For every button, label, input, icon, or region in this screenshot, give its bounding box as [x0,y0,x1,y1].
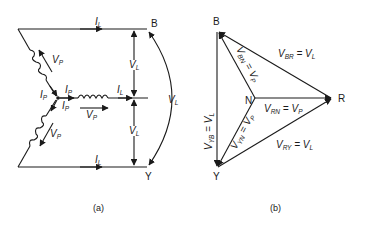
lower-phase-wire-b [18,146,30,167]
vp-upper-label: VP [52,54,64,66]
caption-a: (a) [93,203,104,213]
node-n-label: N [245,95,252,106]
middle-phase-coil [78,95,108,98]
ip-lower-arrow [51,100,57,111]
ip-right-bottom-label: IP [62,100,70,112]
vl-lower-label: VL [129,125,140,137]
vl-upper-label: VL [129,59,140,71]
vbr-label: VBR = VL [278,48,316,60]
il-top-label: IL [95,16,102,28]
vyb-label: VYB = VL [203,113,215,150]
node-b-label-a: B [151,18,158,29]
vyn-label: VYN = VP [228,112,257,152]
three-phase-star-diagram: B Y IL IL IL VP VP VP IP IP IP VL VL VL … [0,0,365,226]
vp-lower-label: VP [50,128,62,140]
node-b-label-b: B [213,16,220,27]
vp-mid-label: VP [86,109,98,121]
vp-upper-arrow [39,50,52,72]
vbn-label: VBN = VP [233,45,262,85]
vrn-label: VRN = VP [264,103,303,115]
node-r-label: R [338,93,345,104]
vl-arc-label: VL [168,94,179,106]
phasor-vbr [219,32,331,98]
node-y-label-a: Y [145,171,152,182]
caption-b: (b) [270,203,281,213]
node-y-label-b: Y [213,171,220,182]
lower-phase-coil [30,116,47,146]
vry-label: VRY = VL [276,139,314,151]
upper-phase-coil [30,50,47,80]
il-mid-label: IL [117,84,124,96]
ip-right-top-label: IP [65,84,73,96]
star-point-node [56,96,60,100]
il-bottom-label: IL [95,154,102,166]
upper-phase-wire-a [18,29,30,50]
ip-upper-arrow [50,86,57,96]
lower-phase-wire-a [46,100,56,116]
ip-left-label: IP [40,89,48,101]
